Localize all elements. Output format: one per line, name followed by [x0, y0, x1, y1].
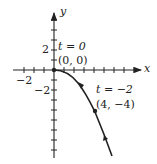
- y-tick-label-2: 2: [42, 44, 49, 55]
- origin-coord-label: (0, 0): [58, 55, 88, 66]
- y-tick-label-neg2: −2: [34, 85, 50, 96]
- t-neg2-label: t = −2: [96, 84, 133, 95]
- point-origin: [52, 68, 56, 72]
- y-axis-label: y: [60, 6, 66, 17]
- x-axis-label: x: [144, 63, 150, 74]
- x-tick-label-neg2: −2: [16, 75, 32, 86]
- t-neg2-coord-label: (4, −4): [96, 99, 135, 110]
- direction-arrow-icon: [78, 82, 84, 89]
- origin-t-label: t = 0: [58, 41, 86, 52]
